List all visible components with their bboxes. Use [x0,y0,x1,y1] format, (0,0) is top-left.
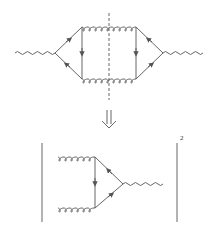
gluon-upper [58,157,95,161]
photon-right [163,52,203,55]
exponent: 2 [180,134,184,142]
gluon-lower [58,208,95,212]
bottom-diagram [42,143,177,222]
top-diagram [15,13,203,100]
photon-out [123,183,163,186]
implies-arrow [102,110,116,128]
photon-left [15,52,55,55]
feynman-diagram [0,0,213,232]
